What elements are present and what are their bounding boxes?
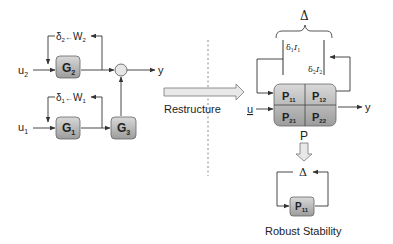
p-matrix-label: P <box>300 129 308 143</box>
delta-entry-1: δ1I1 <box>286 43 300 53</box>
input-u1-label: u1 <box>18 121 28 135</box>
output-y-label: y <box>158 64 164 76</box>
delta-symbol-top: Δ <box>300 9 309 23</box>
robust-loop-right <box>313 172 328 206</box>
diagram-canvas: u2 G2 δ2←W2 y u1 G1 δ1←W1 G3 Restructure <box>0 0 393 244</box>
delta-symbol-bottom: Δ <box>299 166 307 179</box>
left-diagram: u2 G2 δ2←W2 y u1 G1 δ1←W1 G3 <box>18 31 164 139</box>
right-diagram: Δ δ1I1 δ2I2 u P11 P12 P21 P22 y P <box>247 9 371 143</box>
restructure-label: Restructure <box>164 103 221 115</box>
feedback-label-2: δ2←W2 <box>56 31 86 43</box>
input-u2-label: u2 <box>18 64 28 78</box>
down-arrow <box>296 143 312 161</box>
robust-stability-loop: Δ P11 Robust Stability <box>265 166 342 237</box>
g2-feedback-top <box>91 36 102 70</box>
g2-feedback-down <box>48 36 55 64</box>
g1-feedback-down <box>48 97 55 122</box>
feedback-label-1: δ1←W1 <box>56 92 86 104</box>
restructure-arrow <box>164 84 244 100</box>
summing-junction <box>115 64 127 76</box>
uncertainty-brace <box>276 25 332 38</box>
restructure-arrow-shape <box>164 84 244 100</box>
output-y-label-right: y <box>365 101 371 113</box>
input-u-label: u <box>247 103 253 115</box>
delta-entry-2: δ2I2 <box>308 65 322 75</box>
g1-feedback-top <box>91 97 102 128</box>
robust-stability-caption: Robust Stability <box>265 225 342 237</box>
